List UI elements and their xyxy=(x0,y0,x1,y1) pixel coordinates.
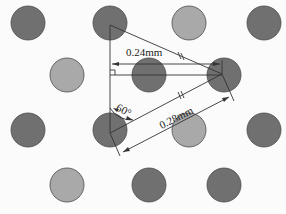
hole-pattern-diagram: 0.24mm 60° 0.28mm xyxy=(0,0,286,214)
hole-circle-dark xyxy=(11,113,45,147)
right-angle-marker xyxy=(110,70,115,75)
hole-circles xyxy=(11,6,281,202)
hole-circle-dark xyxy=(247,113,281,147)
hole-circle-light xyxy=(172,6,206,40)
label-0-24mm: 0.24mm xyxy=(126,46,163,58)
hole-circle-dark xyxy=(132,168,166,202)
hole-circle-dark xyxy=(207,168,241,202)
diagram-canvas: 0.24mm 60° 0.28mm xyxy=(0,0,286,214)
hole-circle-light xyxy=(50,168,84,202)
hole-circle-dark xyxy=(247,6,281,40)
dimension-0-28 xyxy=(123,97,229,152)
geometry-lines xyxy=(110,25,234,156)
hole-circle-light xyxy=(50,58,84,92)
hole-circle-dark xyxy=(11,6,45,40)
